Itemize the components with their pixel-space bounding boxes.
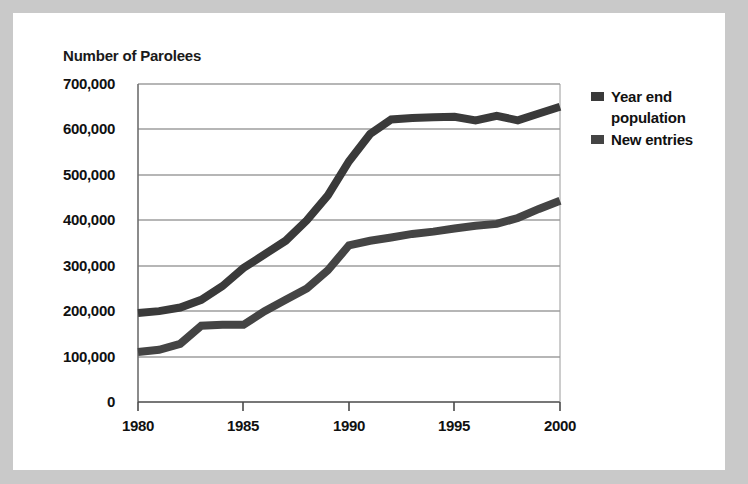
plot-area — [13, 13, 725, 470]
series-line — [138, 201, 560, 352]
series-line — [138, 107, 560, 313]
legend-label: New entries — [611, 129, 693, 150]
x-axis-ticks — [138, 402, 560, 411]
chart-figure: Number of Parolees — [0, 0, 748, 484]
x-tick-label: 1985 — [203, 417, 283, 434]
x-tick-label: 1990 — [309, 417, 389, 434]
y-tick-label: 200,000 — [5, 302, 115, 319]
x-tick-label: 1995 — [414, 417, 494, 434]
y-tick-label: 500,000 — [5, 166, 115, 183]
legend-swatch-square-icon — [591, 92, 604, 101]
data-series-layer — [138, 107, 560, 352]
y-tick-label: 0 — [5, 393, 115, 410]
legend-label: Year end population — [611, 86, 731, 128]
chart-paper: Number of Parolees — [13, 13, 725, 470]
y-tick-label: 400,000 — [5, 211, 115, 228]
chart-legend: Year end population New entries — [591, 86, 731, 151]
legend-item-new-entries: New entries — [591, 129, 731, 150]
x-tick-label: 2000 — [520, 417, 600, 434]
y-tick-label: 100,000 — [5, 348, 115, 365]
y-tick-label: 700,000 — [5, 75, 115, 92]
legend-swatch-square-icon — [591, 135, 604, 144]
y-tick-label: 300,000 — [5, 257, 115, 274]
y-tick-label: 600,000 — [5, 120, 115, 137]
x-tick-label: 1980 — [98, 417, 178, 434]
legend-item-year-end-population: Year end population — [591, 86, 731, 128]
